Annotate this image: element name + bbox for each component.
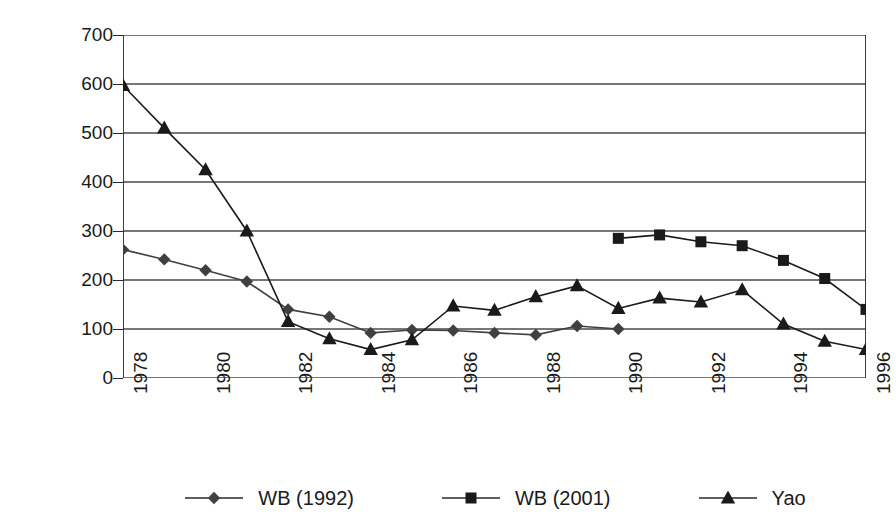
legend-item[interactable]: WB (2001) [440, 488, 611, 508]
data-point-triangle [720, 490, 734, 503]
legend-item[interactable]: Yao [697, 488, 806, 508]
legend-marker-square [440, 488, 502, 508]
x-tick-label: 1986 [461, 352, 480, 394]
x-tick-label: 1992 [709, 352, 728, 394]
legend-label: WB (2001) [515, 488, 611, 508]
legend-marker-diamond [183, 488, 245, 508]
data-point-square [465, 493, 476, 504]
x-tick-label: 1988 [544, 352, 563, 394]
chart-legend: WB (1992)WB (2001)Yao [123, 481, 866, 515]
legend-label: Yao [772, 488, 806, 508]
x-axis-tick-labels: 1978198019821984198619881990199219941996 [0, 0, 896, 532]
x-tick-label: 1994 [791, 352, 810, 394]
x-tick-label: 1984 [379, 352, 398, 394]
x-tick-label: 1990 [626, 352, 645, 394]
x-tick-label: 1980 [214, 352, 233, 394]
legend-marker-triangle [697, 488, 759, 508]
x-tick-label: 1978 [131, 352, 150, 394]
data-point-diamond [208, 492, 220, 504]
chart-figure: (millions of persons) 700600500400300200… [0, 0, 896, 532]
legend-item[interactable]: WB (1992) [183, 488, 354, 508]
x-tick-label: 1982 [296, 352, 315, 394]
legend-label: WB (1992) [258, 488, 354, 508]
x-tick-label: 1996 [874, 352, 893, 394]
